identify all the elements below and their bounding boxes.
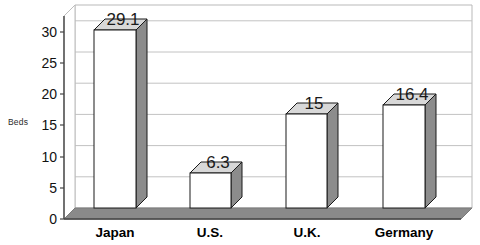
bar-japan-side [136,19,147,208]
chart-container: 0 5 10 15 20 25 30 Beds [0,0,480,245]
y-tick-label-15: 15 [41,117,57,133]
category-labels: Japan U.S. U.K. Germany [95,225,433,240]
y-tick-label-20: 20 [41,86,57,102]
category-label-japan: Japan [95,225,134,240]
left-side-wall [64,5,75,219]
category-label-germany: Germany [375,225,434,240]
y-tick-labels: 0 5 10 15 20 25 30 [41,24,57,227]
bar-germany[interactable] [383,94,436,208]
y-tick-label-25: 25 [41,55,57,71]
y-tick-label-5: 5 [49,180,57,196]
category-label-uk: U.K. [294,225,321,240]
value-label-japan: 29.1 [106,10,139,29]
bar-uk-face [286,114,327,208]
value-label-uk: 15 [305,94,324,113]
bar-japan-face [94,30,136,208]
value-label-us: 6.3 [206,153,230,172]
value-label-germany: 16.4 [395,85,428,104]
y-tick-label-0: 0 [49,211,57,227]
y-tick-label-10: 10 [41,149,57,165]
category-label-us: U.S. [197,225,223,240]
y-axis-title: Beds [8,117,28,127]
bar-uk[interactable] [286,103,338,208]
bar-germany-face [383,105,425,208]
bar-us-face [190,173,231,208]
bar-chart: 0 5 10 15 20 25 30 Beds [0,0,480,245]
bar-japan[interactable] [94,19,147,208]
bar-germany-side [425,94,436,208]
bar-uk-side [327,103,338,208]
floor-plane [64,208,472,219]
y-tick-label-30: 30 [41,24,57,40]
